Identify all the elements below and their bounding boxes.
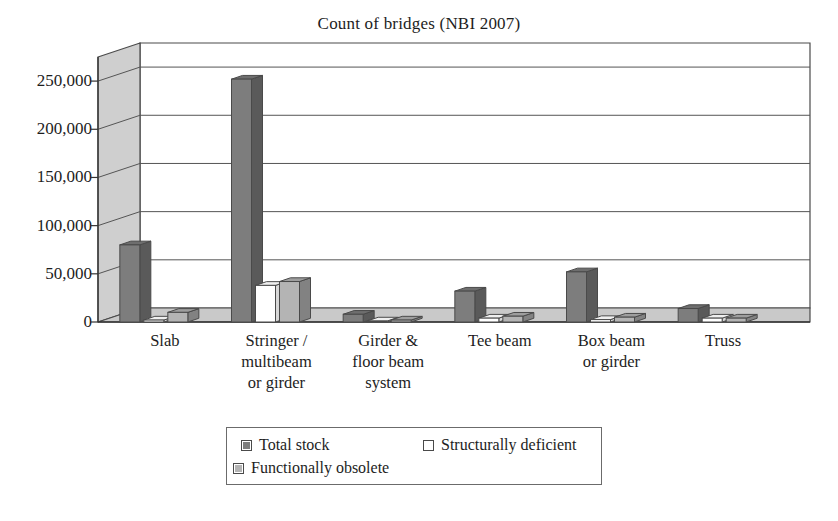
legend-item-label: Functionally obsolete [251, 459, 389, 477]
x-axis-category-label-line: or girder [556, 351, 668, 372]
x-axis-category-label-line: Stringer / [221, 330, 333, 351]
bar [168, 309, 199, 322]
x-axis-category-label-line: Girder & [332, 330, 444, 351]
bar-front-face [280, 282, 300, 322]
bar-front-face [391, 320, 411, 322]
bar [567, 268, 598, 322]
bar-front-face [232, 79, 252, 322]
x-axis-category-label: Stringer /multibeamor girder [221, 330, 333, 393]
legend-item[interactable]: Structurally deficient [423, 436, 577, 454]
bar-front-face [479, 318, 499, 322]
x-axis-category-label: Girder &floor beamsystem [332, 330, 444, 393]
bar-front-face [455, 291, 475, 322]
x-axis-category-label-line: Tee beam [444, 330, 556, 351]
bar [455, 287, 486, 322]
legend-item-label: Total stock [259, 436, 329, 454]
bar-front-face [120, 245, 140, 322]
bar [280, 278, 311, 322]
x-axis-category-label-line: multibeam [221, 351, 333, 372]
bar-side-face [300, 278, 311, 322]
legend-item[interactable]: Functionally obsolete [233, 459, 389, 477]
bar-front-face [591, 320, 611, 322]
bar [120, 241, 151, 322]
bar-side-face [587, 268, 598, 322]
legend-item-label: Structurally deficient [441, 436, 577, 454]
x-axis-category-labels: SlabStringer /multibeamor girderGirder &… [98, 330, 810, 416]
x-axis-category-label-line: Truss [667, 330, 779, 351]
x-axis-category-label-line: Box beam [556, 330, 668, 351]
x-axis-category-label: Truss [667, 330, 779, 351]
x-axis-category-label: Tee beam [444, 330, 556, 351]
chart-legend: Total stockStructurally deficientFunctio… [226, 427, 602, 485]
bar-front-face [367, 321, 387, 322]
x-axis-category-label-line: system [332, 372, 444, 393]
bar-front-face [144, 320, 164, 322]
bar-front-face [567, 272, 587, 322]
x-axis-category-label: Slab [109, 330, 221, 351]
legend-swatch-deficient-icon [423, 440, 434, 451]
x-axis-category-label-line: or girder [221, 372, 333, 393]
legend-swatch-obsolete-icon [233, 463, 244, 474]
bar-side-face [140, 241, 151, 322]
bar-front-face [256, 285, 276, 322]
x-axis-category-label: Box beamor girder [556, 330, 668, 372]
bar-chart: Count of bridges (NBI 2007) 250,000200,0… [0, 0, 838, 521]
bar-front-face [168, 312, 188, 322]
x-axis-category-label-line: floor beam [332, 351, 444, 372]
bar-front-face [726, 318, 746, 322]
bar-front-face [503, 316, 523, 322]
bar-front-face [343, 314, 363, 322]
bar-front-face [702, 318, 722, 322]
legend-swatch-total-icon [241, 440, 252, 451]
x-axis-category-label-line: Slab [109, 330, 221, 351]
bar-front-face [615, 317, 635, 322]
legend-item[interactable]: Total stock [241, 436, 329, 454]
bar-front-face [678, 309, 698, 322]
